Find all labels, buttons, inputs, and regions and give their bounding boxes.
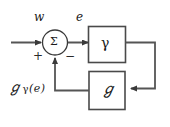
feedback-block-symbol: ℊ: [101, 82, 116, 97]
block-diagram-canvas: w e Σ + − γ ℊ ℊγ(e): [0, 0, 170, 127]
output-label-script-g-part: ℊ: [8, 79, 23, 95]
summing-junction-minus-sign: −: [65, 50, 75, 62]
output-signal-label: ℊγ(e): [8, 80, 46, 94]
summing-junction-plus-sign: +: [33, 50, 43, 62]
input-label-w: w: [34, 11, 44, 23]
forward-block-symbol: γ: [101, 36, 109, 50]
forward-output-path: [126, 43, 156, 89]
error-label-e: e: [76, 11, 83, 23]
summing-junction-symbol: Σ: [50, 36, 58, 47]
diagram-vector-layer: [0, 0, 170, 127]
output-label-argument-part: (e): [29, 82, 46, 95]
